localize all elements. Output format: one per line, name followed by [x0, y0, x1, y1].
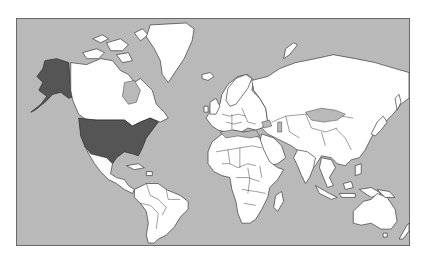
region-tasmania [383, 233, 387, 237]
world-map-svg [17, 19, 409, 245]
world-map [16, 18, 410, 246]
